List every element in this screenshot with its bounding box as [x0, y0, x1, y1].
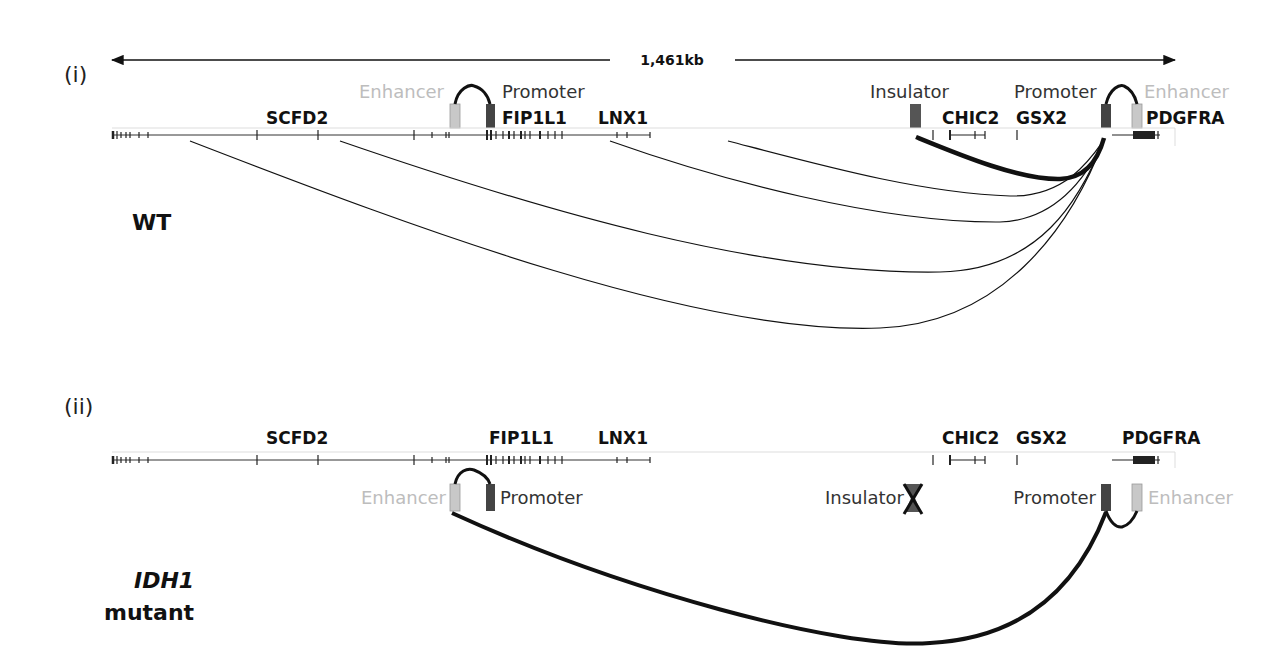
- panel-ii: (ii) SCFD2 FIP1L1 LNX1 CHIC2 GSX2 PDGFRA: [64, 394, 1234, 644]
- gene-label-lnx1: LNX1: [598, 428, 648, 448]
- enhancer-left-label: Enhancer: [361, 487, 447, 508]
- right-loop: [1106, 86, 1137, 104]
- insulator-label: Insulator: [870, 81, 950, 102]
- gene-label-gsx2: GSX2: [1016, 108, 1067, 128]
- enhancer-right-box: [1132, 484, 1142, 511]
- enhancer-left-box: [450, 104, 460, 128]
- scale-bar: 1,461kb: [112, 52, 1175, 68]
- promoter-right-label: Promoter: [1013, 487, 1096, 508]
- gene-label-chic2: CHIC2: [942, 108, 999, 128]
- genomic-track: [112, 128, 1175, 146]
- panel-label-i: (i): [64, 62, 87, 87]
- promoter-left-box: [486, 104, 495, 128]
- diagram-canvas: (i) 1,461kb Enhancer Promoter Insulator …: [0, 0, 1284, 669]
- promoter-right-box: [1101, 104, 1111, 128]
- right-loop: [1106, 511, 1137, 527]
- insulator-box: [910, 104, 921, 128]
- scale-label: 1,461kb: [640, 52, 704, 68]
- promoter-left-label: Promoter: [500, 487, 583, 508]
- state-label-wt: WT: [132, 210, 171, 235]
- enhancer-left-label: Enhancer: [359, 81, 445, 102]
- gene-label-scfd2: SCFD2: [266, 428, 328, 448]
- promoter-right-label: Promoter: [1014, 81, 1097, 102]
- state-label-idh1: IDH1: [134, 568, 194, 593]
- insulator-label: Insulator: [825, 487, 905, 508]
- gene-label-chic2: CHIC2: [942, 428, 999, 448]
- panel-i: (i) 1,461kb Enhancer Promoter Insulator …: [64, 52, 1230, 328]
- promoter-right-box: [1101, 484, 1111, 511]
- left-loop: [455, 86, 490, 104]
- arc-1: [190, 140, 1104, 328]
- arc-4: [728, 140, 1104, 196]
- aberrant-enhancer-promoter-arc: [452, 512, 1106, 644]
- interaction-arcs: [190, 140, 1104, 328]
- state-label-mutant: mutant: [104, 600, 195, 625]
- gene-label-gsx2: GSX2: [1016, 428, 1067, 448]
- disrupted-insulator-icon: [904, 484, 922, 514]
- arc-2: [340, 140, 1104, 272]
- gene-label-fip1l1: FIP1L1: [502, 108, 567, 128]
- genomic-track: [112, 452, 1175, 468]
- left-loop: [455, 469, 490, 484]
- enhancer-right-box: [1132, 104, 1142, 128]
- panel-label-ii: (ii): [64, 394, 93, 419]
- gene-label-scfd2: SCFD2: [266, 108, 328, 128]
- enhancer-right-label: Enhancer: [1148, 487, 1234, 508]
- promoter-left-label: Promoter: [502, 81, 585, 102]
- gene-label-pdgfra: PDGFRA: [1146, 108, 1225, 128]
- enhancer-left-box: [450, 484, 460, 511]
- promoter-left-box: [486, 484, 495, 511]
- enhancer-right-label: Enhancer: [1144, 81, 1230, 102]
- arc-3: [610, 140, 1104, 222]
- gene-label-lnx1: LNX1: [598, 108, 648, 128]
- gene-label-pdgfra: PDGFRA: [1122, 428, 1201, 448]
- gene-label-fip1l1: FIP1L1: [489, 428, 554, 448]
